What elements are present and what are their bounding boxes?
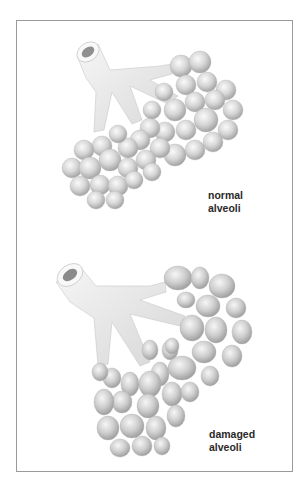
damaged-alveoli-illustration: [0, 242, 305, 484]
label-line: damaged: [209, 428, 255, 441]
normal-alveoli-label: normal alveoli: [208, 189, 243, 215]
normal-alveoli-panel: normal alveoli: [0, 0, 305, 242]
damaged-alveoli-panel: damaged alveoli: [0, 242, 305, 484]
damaged-alveoli-label: damaged alveoli: [209, 428, 255, 454]
label-line: alveoli: [208, 202, 243, 215]
label-line: alveoli: [209, 441, 255, 454]
label-line: normal: [208, 189, 243, 202]
normal-alveoli-illustration: [0, 0, 305, 242]
